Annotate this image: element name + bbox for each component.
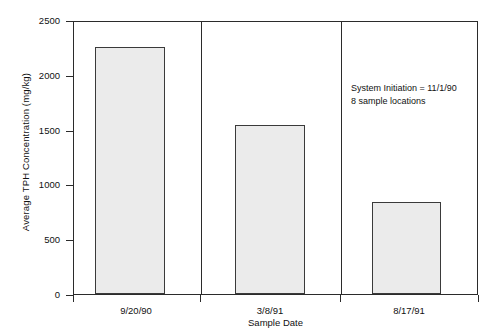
x-tick-mark-left (73, 295, 74, 302)
bar-3-8-91 (235, 125, 305, 294)
x-tick-label-0: 9/20/90 (76, 305, 196, 316)
y-tick-label-2500: 2500 (20, 16, 60, 26)
x-tick-label-1: 3/8/91 (210, 305, 330, 316)
x-tick-label-2: 8/17/91 (349, 305, 469, 316)
chart-annotation: System Initiation = 11/1/90 8 sample loc… (351, 82, 457, 107)
annotation-line-2: 8 sample locations (351, 95, 457, 108)
bar-9-20-90 (95, 47, 165, 294)
y-axis-title: Average TPH Concentration (mg/kg) (14, 4, 36, 300)
y-tick-label-1500: 1500 (20, 126, 60, 136)
x-tick-mark-1 (200, 295, 201, 302)
y-tick-label-0: 0 (20, 290, 60, 300)
plot-area: System Initiation = 11/1/90 8 sample loc… (73, 21, 478, 295)
y-tick-label-500: 500 (20, 235, 60, 245)
bar-8-17-91 (372, 202, 441, 294)
annotation-line-1: System Initiation = 11/1/90 (351, 82, 457, 95)
bar-chart: Average TPH Concentration (mg/kg) 0 500 … (0, 0, 500, 336)
y-tick-label-2000: 2000 (20, 71, 60, 81)
panel-divider-1 (201, 22, 202, 294)
x-tick-mark-right (478, 295, 479, 302)
x-tick-mark-2 (340, 295, 341, 302)
x-axis-title: Sample Date (73, 317, 478, 328)
panel-divider-2 (341, 22, 342, 294)
y-tick-label-1000: 1000 (20, 180, 60, 190)
